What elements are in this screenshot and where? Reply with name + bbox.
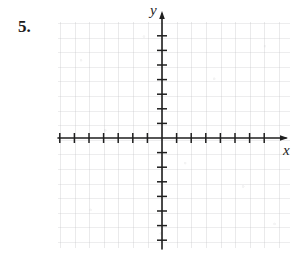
y-axis-label: y — [150, 3, 157, 18]
x-axis-arrowhead — [280, 135, 288, 141]
worksheet-page: 5. y x — [0, 0, 296, 262]
coordinate-plane — [0, 0, 296, 262]
y-axis-arrowhead — [159, 11, 165, 19]
axes-group — [58, 11, 288, 249]
x-axis-label: x — [283, 143, 290, 158]
